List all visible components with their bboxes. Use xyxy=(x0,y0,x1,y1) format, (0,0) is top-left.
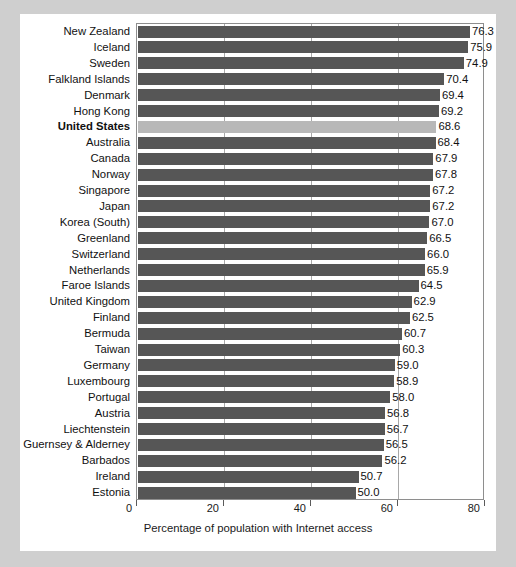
category-label: New Zealand xyxy=(63,24,130,39)
bar-row: Australia68.4 xyxy=(137,135,483,151)
bar-value-label: 56.2 xyxy=(384,454,406,467)
bar-value-label: 59.0 xyxy=(397,359,419,372)
bar: 56.2 xyxy=(138,455,382,467)
bar: 67.2 xyxy=(138,185,430,197)
category-label: Australia xyxy=(86,135,130,150)
bar: 66.0 xyxy=(138,248,425,260)
category-label: Austria xyxy=(95,406,130,421)
bar-row: Germany59.0 xyxy=(137,358,483,374)
bar-row: Barbados56.2 xyxy=(137,453,483,469)
category-label: Hong Kong xyxy=(73,104,130,119)
bar-row: Denmark69.4 xyxy=(137,88,483,104)
bar-value-label: 75.9 xyxy=(470,41,492,54)
bar: 76.3 xyxy=(138,26,470,38)
x-tick-mark xyxy=(397,500,398,506)
bar-value-label: 56.5 xyxy=(386,438,408,451)
bar-row: Finland62.5 xyxy=(137,310,483,326)
x-tick-mark xyxy=(484,500,485,506)
bar: 59.0 xyxy=(138,359,395,371)
bar: 68.4 xyxy=(138,137,436,149)
bar-row: Iceland75.9 xyxy=(137,40,483,56)
bar-value-label: 62.5 xyxy=(412,311,434,324)
category-label: Ireland xyxy=(95,469,130,484)
bar-value-label: 67.2 xyxy=(432,200,454,213)
x-tick-label: 20 xyxy=(207,502,219,514)
bar: 56.7 xyxy=(138,423,385,435)
x-tick-label: 60 xyxy=(381,502,393,514)
category-label: United Kingdom xyxy=(50,294,130,309)
bar: 56.8 xyxy=(138,407,385,419)
bar: 58.0 xyxy=(138,391,390,403)
bar: 67.9 xyxy=(138,153,433,165)
bar-row: Norway67.8 xyxy=(137,167,483,183)
bar-value-label: 67.9 xyxy=(435,152,457,165)
bar-value-label: 70.4 xyxy=(446,73,468,86)
bar-row: Japan67.2 xyxy=(137,199,483,215)
x-tick-mark xyxy=(310,500,311,506)
category-label: Portugal xyxy=(88,390,130,405)
bar-value-label: 62.9 xyxy=(414,295,436,308)
category-label: Japan xyxy=(99,199,130,214)
category-label: Liechtenstein xyxy=(63,422,130,437)
category-label: Falkland Islands xyxy=(48,72,130,87)
bar: 67.2 xyxy=(138,200,430,212)
bar-row: Ireland50.7 xyxy=(137,469,483,485)
category-label: Estonia xyxy=(92,485,130,500)
category-label: Iceland xyxy=(94,40,130,55)
category-label: Faroe Islands xyxy=(62,278,130,293)
bar-value-label: 69.2 xyxy=(441,105,463,118)
bar-row: Greenland66.5 xyxy=(137,231,483,247)
x-tick-mark xyxy=(223,500,224,506)
plot-area: New Zealand76.3Iceland75.9Sweden74.9Falk… xyxy=(136,23,484,500)
bar-row: Sweden74.9 xyxy=(137,56,483,72)
x-tick-label: 40 xyxy=(294,502,306,514)
bar: 75.9 xyxy=(138,41,468,53)
bar-rows: New Zealand76.3Iceland75.9Sweden74.9Falk… xyxy=(137,24,483,499)
bar: 64.5 xyxy=(138,280,419,292)
bar: 56.5 xyxy=(138,439,384,451)
bar-value-label: 58.9 xyxy=(396,375,418,388)
x-tick-mark xyxy=(136,500,137,506)
bar-row: Liechtenstein56.7 xyxy=(137,422,483,438)
bar-row: Singapore67.2 xyxy=(137,183,483,199)
category-label: Singapore xyxy=(78,183,130,198)
bar-row: Taiwan60.3 xyxy=(137,342,483,358)
bar: 50.0 xyxy=(138,487,356,499)
bar-value-label: 64.5 xyxy=(421,279,443,292)
bar-value-label: 66.5 xyxy=(429,232,451,245)
bar: 74.9 xyxy=(138,57,464,69)
bar-value-label: 60.3 xyxy=(402,343,424,356)
x-axis-title: Percentage of population with Internet a… xyxy=(20,522,496,534)
category-label: Canada xyxy=(90,151,130,166)
chart-figure: New Zealand76.3Iceland75.9Sweden74.9Falk… xyxy=(20,14,496,551)
bar-row: United States68.6 xyxy=(137,119,483,135)
bar: 67.8 xyxy=(138,169,433,181)
bar-value-label: 74.9 xyxy=(466,57,488,70)
bar-value-label: 69.4 xyxy=(442,89,464,102)
category-label: Finland xyxy=(93,310,130,325)
bar-row: Netherlands65.9 xyxy=(137,263,483,279)
bar-row: New Zealand76.3 xyxy=(137,24,483,40)
category-label: Germany xyxy=(84,358,130,373)
bar-value-label: 76.3 xyxy=(472,25,494,38)
bar: 60.7 xyxy=(138,328,402,340)
bar: 62.5 xyxy=(138,312,410,324)
bar-value-label: 50.0 xyxy=(358,486,380,499)
bar: 69.4 xyxy=(138,89,440,101)
category-label: United States xyxy=(58,119,130,134)
bar-row: Guernsey & Alderney56.5 xyxy=(137,437,483,453)
bar-value-label: 67.0 xyxy=(431,216,453,229)
bar: 66.5 xyxy=(138,232,427,244)
bar-value-label: 58.0 xyxy=(392,391,414,404)
category-label: Bermuda xyxy=(84,326,130,341)
bar: 58.9 xyxy=(138,375,394,387)
bar-value-label: 60.7 xyxy=(404,327,426,340)
bar-value-label: 68.6 xyxy=(438,120,460,133)
bar-value-label: 50.7 xyxy=(361,470,383,483)
x-tick-label: 80 xyxy=(468,502,480,514)
bar-value-label: 68.4 xyxy=(438,136,460,149)
bar-row: Hong Kong69.2 xyxy=(137,104,483,120)
category-label: Netherlands xyxy=(69,263,130,278)
category-label: Guernsey & Alderney xyxy=(23,437,130,452)
bar: 62.9 xyxy=(138,296,412,308)
